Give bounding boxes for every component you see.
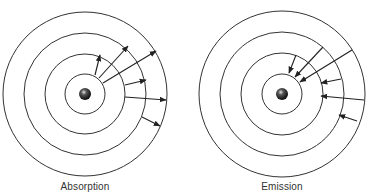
transition-arrow-3	[300, 50, 352, 82]
absorption-label: Absorption	[35, 181, 135, 192]
nucleus-icon	[79, 88, 91, 100]
atom-diagrams-canvas	[0, 0, 368, 196]
transition-arrow-4	[321, 79, 341, 83]
nucleus-icon	[276, 88, 288, 100]
transition-arrow-3	[103, 51, 156, 83]
emission-label: Emission	[232, 181, 332, 192]
absorption-atom-diagram	[3, 12, 167, 176]
transition-arrow-6	[339, 115, 357, 121]
transition-arrow-5	[321, 96, 364, 100]
transition-arrow-2	[295, 47, 323, 77]
transition-arrow-2	[99, 46, 128, 78]
transition-arrow-1	[95, 55, 100, 75]
transition-arrow-1	[289, 55, 296, 73]
transition-arrow-6	[142, 117, 160, 126]
emission-atom-diagram	[199, 11, 365, 177]
transition-arrow-4	[125, 80, 146, 85]
